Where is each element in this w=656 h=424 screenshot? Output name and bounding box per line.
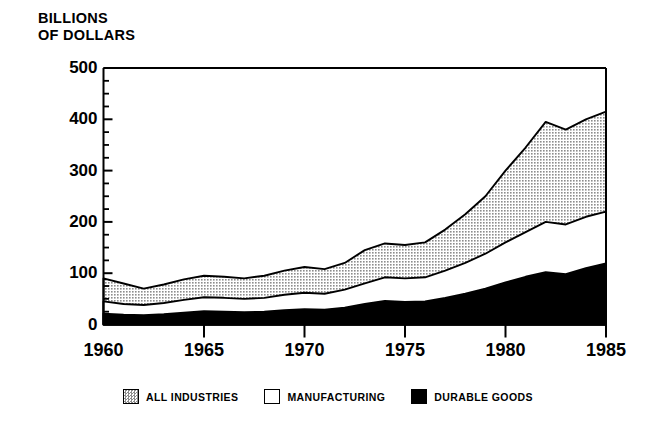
legend-item: DURABLE GOODS [411,389,533,404]
legend-swatch [264,389,280,404]
y-tick-label: 200 [42,212,98,232]
x-tick-label: 1970 [270,340,340,361]
legend-swatch [123,389,139,404]
x-tick-label: 1985 [571,340,641,361]
chart-figure: BILLIONS OF DOLLARS 0100200300400500 196… [0,0,656,424]
y-tick-label: 300 [42,161,98,181]
legend-label: MANUFACTURING [287,391,385,403]
legend-swatch [411,389,427,404]
y-tick-label: 500 [42,58,98,78]
x-tick-label: 1980 [471,340,541,361]
legend-item: MANUFACTURING [264,389,385,404]
y-tick-label: 0 [42,315,98,335]
legend-label: DURABLE GOODS [434,391,533,403]
legend-item: ALL INDUSTRIES [123,389,238,404]
chart-legend: ALL INDUSTRIESMANUFACTURINGDURABLE GOODS [0,389,656,404]
x-tick-label: 1960 [69,340,139,361]
x-tick-label: 1975 [370,340,440,361]
legend-label: ALL INDUSTRIES [146,391,238,403]
y-tick-label: 100 [42,263,98,283]
series-layer [104,112,607,325]
x-tick-label: 1965 [169,340,239,361]
y-tick-label: 400 [42,109,98,129]
